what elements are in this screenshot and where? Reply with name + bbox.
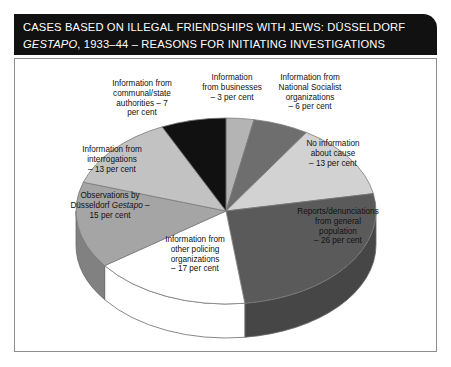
slice-label-interrogations: Information frominterrogations– 13 per c… <box>61 145 163 174</box>
observations-gestapo-italic: Gestapo <box>112 201 143 210</box>
figure-pie-chart: CASES BASED ON ILLEGAL FRIENDSHIPS WITH … <box>0 0 451 367</box>
chart-plot-frame: Information fromcommunal/stateauthoritie… <box>14 58 437 352</box>
chart-title-line-2-rest: , 1933–44 – REASONS FOR INITIATING INVES… <box>77 38 385 50</box>
slice-label-national-socialist-orgs: Information fromNational Socialistorgani… <box>261 73 359 112</box>
slice-label-other-policing-orgs: Information fromother policingorganizati… <box>144 235 246 274</box>
slice-label-businesses: Informationfrom businesses– 3 per cent <box>193 73 271 102</box>
pie-chart-area: Information fromcommunal/stateauthoritie… <box>15 59 436 351</box>
slice-label-observations-gestapo: Observations byDüsseldorf Gestapo –15 pe… <box>55 191 165 220</box>
slice-label-no-information-about-cause: No informationabout cause– 13 per cent <box>287 139 379 168</box>
chart-title-gestapo-italic: GESTAPO <box>23 38 77 50</box>
slice-label-reports-denunciations: Reports/denunciationsfrom generalpopulat… <box>286 207 390 246</box>
chart-title-bar: CASES BASED ON ILLEGAL FRIENDSHIPS WITH … <box>14 14 437 55</box>
chart-title-line-2: GESTAPO, 1933–44 – REASONS FOR INITIATIN… <box>23 36 437 53</box>
slice-label-communal-state-authorities: Information fromcommunal/stateauthoritie… <box>88 79 196 118</box>
chart-title-line-1: CASES BASED ON ILLEGAL FRIENDSHIPS WITH … <box>23 19 437 36</box>
